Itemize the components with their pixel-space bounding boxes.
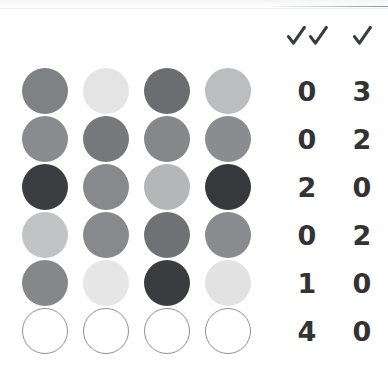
circle-filled[interactable] (205, 68, 251, 114)
score-row: 20 (268, 164, 388, 212)
circle-filled[interactable] (83, 260, 129, 306)
double-check-score: 0 (276, 68, 338, 116)
circle-filled[interactable] (144, 68, 190, 114)
circle-empty[interactable] (83, 308, 129, 354)
circle-empty[interactable] (144, 308, 190, 354)
single-check-score: 0 (338, 164, 386, 212)
circle-filled[interactable] (22, 68, 68, 114)
double-check-score: 1 (276, 260, 338, 308)
circle-empty[interactable] (205, 308, 251, 354)
circle-filled[interactable] (83, 68, 129, 114)
circle-filled[interactable] (205, 260, 251, 306)
single-check-score: 3 (338, 68, 386, 116)
circle-filled[interactable] (144, 212, 190, 258)
single-check-score: 2 (338, 212, 386, 260)
score-row: 40 (268, 308, 388, 356)
score-columns: 030220021040 (268, 0, 388, 369)
circle-filled[interactable] (22, 164, 68, 210)
grid-row (0, 308, 268, 356)
circle-empty[interactable] (22, 308, 68, 354)
circle-filled[interactable] (205, 164, 251, 210)
single-check-score: 0 (338, 260, 386, 308)
grid-row (0, 68, 268, 116)
circle-filled[interactable] (22, 212, 68, 258)
grid-row (0, 116, 268, 164)
circle-filled[interactable] (144, 116, 190, 162)
grid-row (0, 164, 268, 212)
circle-filled[interactable] (22, 116, 68, 162)
circle-filled[interactable] (205, 116, 251, 162)
circle-filled[interactable] (83, 164, 129, 210)
grid-row (0, 260, 268, 308)
circle-filled[interactable] (144, 260, 190, 306)
circle-grid (0, 0, 268, 369)
circle-filled[interactable] (22, 260, 68, 306)
worksheet-sheet: 030220021040 (0, 0, 388, 369)
circle-filled[interactable] (205, 212, 251, 258)
double-check-score: 0 (276, 212, 338, 260)
grid-row (0, 212, 268, 260)
score-row: 10 (268, 260, 388, 308)
double-check-score: 0 (276, 116, 338, 164)
single-check-score: 0 (338, 308, 386, 356)
double-check-score: 2 (276, 164, 338, 212)
circle-filled[interactable] (83, 212, 129, 258)
score-row: 02 (268, 212, 388, 260)
circle-filled[interactable] (144, 164, 190, 210)
circle-filled[interactable] (83, 116, 129, 162)
double-check-score: 4 (276, 308, 338, 356)
score-row: 02 (268, 116, 388, 164)
score-row: 03 (268, 68, 388, 116)
single-check-score: 2 (338, 116, 386, 164)
